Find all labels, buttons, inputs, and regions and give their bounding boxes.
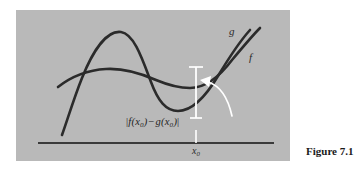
minus-operator: − — [147, 116, 155, 127]
distance-arrow-group — [189, 67, 203, 118]
x-point-subscript: 0 — [196, 150, 199, 157]
function-f-subscript: 0 — [140, 121, 144, 129]
distance-annotation-label: |f(x0)−g(x0)| — [126, 117, 179, 128]
curve-label-f: f — [249, 52, 252, 63]
abs-bar-close: | — [177, 116, 179, 127]
figure-root: g f |f(x0)−g(x0)| x0 Figure 7.1 — [0, 0, 359, 178]
figure-panel: g f |f(x0)−g(x0)| x0 — [16, 10, 290, 161]
function-g-subscript: 0 — [170, 121, 174, 129]
curve-label-g: g — [229, 26, 235, 37]
function-f-arg-open: (x — [131, 116, 140, 127]
figure-caption: Figure 7.1 — [306, 146, 353, 157]
x-axis-point-label: x0 — [192, 146, 200, 156]
figure-plot-svg — [16, 10, 290, 161]
function-g-arg-open: (x — [161, 116, 170, 127]
